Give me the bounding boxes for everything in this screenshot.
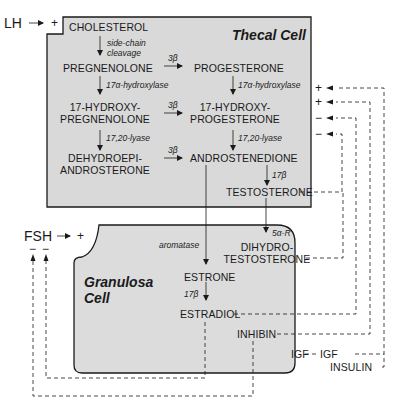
enzyme-cleavage: cleavage bbox=[107, 48, 141, 58]
enzyme-17b-granulosa: 17β bbox=[184, 289, 198, 299]
enzyme-17b-thecal: 17β bbox=[272, 170, 286, 180]
inhibin: INHIBIN bbox=[237, 328, 276, 340]
feedback-sign-3: − bbox=[315, 112, 322, 124]
fsh-feedback-sign-2: − bbox=[42, 243, 49, 255]
estradiol: ESTRADIOL bbox=[180, 308, 240, 320]
feedback-sign-2: + bbox=[315, 96, 322, 108]
igf-granulosa: IGF bbox=[291, 348, 309, 360]
hydroxy-progesterone-line2: PROGESTERONE bbox=[190, 113, 280, 125]
cholesterol: CHOLESTEROL bbox=[69, 21, 148, 33]
feedback-sign-4: − bbox=[315, 128, 322, 140]
lh-stimulation-sign: + bbox=[51, 17, 58, 29]
thecal-cell-title: Thecal Cell bbox=[232, 27, 306, 43]
dhea-line2: ANDROSTERONE bbox=[60, 164, 150, 176]
androstenedione: ANDROSTENEDIONE bbox=[190, 152, 298, 164]
granulosa-cell-title-line1: Granulosa bbox=[84, 274, 153, 290]
enzyme-3b-2: 3β bbox=[168, 100, 178, 110]
dht-line2: TESTOSTERONE bbox=[222, 253, 312, 265]
enzyme-17a-hydroxylase-right: 17α-hydroxylase bbox=[238, 80, 301, 90]
dhea-line1: DEHYDROEPI- bbox=[60, 152, 150, 164]
enzyme-side-chain: side-chain bbox=[107, 38, 146, 48]
pregnenolone: PREGNENOLONE bbox=[63, 62, 153, 74]
hydroxy-progesterone-line1: 17-HYDROXY- bbox=[190, 101, 280, 113]
fsh-stimulation-sign: + bbox=[77, 230, 84, 242]
fsh-feedback-sign-1: − bbox=[29, 243, 36, 255]
enzyme-3b-3: 3β bbox=[168, 145, 178, 155]
igf-external: IGF bbox=[320, 348, 338, 360]
diagram-lines bbox=[0, 0, 401, 405]
enzyme-17-20-lyase-right: 17,20-lyase bbox=[238, 133, 282, 143]
dht-line1: DIHYDRO- bbox=[222, 241, 312, 253]
hydroxy-pregnenolone-line1: 17-HYDROXY- bbox=[60, 101, 150, 113]
enzyme-17a-hydroxylase-left: 17α-hydroxylase bbox=[106, 80, 169, 90]
enzyme-aromatase: aromatase bbox=[159, 240, 199, 250]
estrone: ESTRONE bbox=[184, 271, 235, 283]
granulosa-cell-title-line2: Cell bbox=[84, 290, 110, 306]
enzyme-5a-reductase: 5α-R bbox=[272, 228, 291, 238]
hydroxy-pregnenolone-line2: PREGNENOLONE bbox=[60, 113, 150, 125]
progesterone: PROGESTERONE bbox=[194, 62, 284, 74]
enzyme-17-20-lyase-left: 17,20-lyase bbox=[106, 133, 150, 143]
testosterone: TESTOSTERONE bbox=[226, 186, 313, 198]
feedback-sign-1: + bbox=[315, 82, 322, 94]
lh-label: LH bbox=[4, 15, 22, 31]
insulin: INSULIN bbox=[330, 361, 372, 373]
enzyme-3b-1: 3β bbox=[168, 53, 178, 63]
